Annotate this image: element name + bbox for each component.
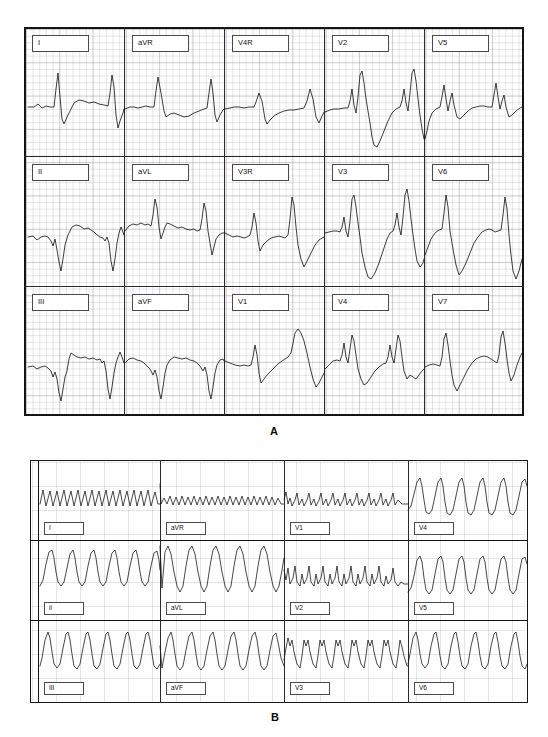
lead-label-a-v1: V1 bbox=[232, 294, 289, 311]
lead-label-b-avr: aVR bbox=[166, 522, 206, 535]
panel-a: I aVR V4R V2 V5 II aVL V3R V3 V6 III aVF… bbox=[24, 27, 524, 416]
panel-a-col-separator bbox=[124, 27, 125, 416]
lead-label-b-v2: V2 bbox=[290, 602, 330, 615]
panel-b-caption: B bbox=[271, 711, 279, 723]
lead-label-a-iii: III bbox=[32, 294, 89, 311]
lead-label-a-v7: V7 bbox=[432, 294, 489, 311]
lead-label-b-i: I bbox=[44, 522, 84, 535]
panel-a-col-separator bbox=[324, 27, 325, 416]
panel-a-row-separator bbox=[24, 156, 524, 157]
lead-label-b-avf: aVF bbox=[166, 682, 206, 695]
lead-label-a-v3r: V3R bbox=[232, 164, 289, 181]
panel-b-col-separator bbox=[160, 460, 161, 703]
panel-a-row-separator bbox=[24, 286, 524, 287]
panel-b: I aVR V1 V4 ii aVL V2 V5 III aVF V3 V6 bbox=[30, 460, 528, 703]
lead-label-b-v5: V5 bbox=[414, 602, 454, 615]
lead-label-a-avf: aVF bbox=[132, 294, 189, 311]
lead-label-b-v1: V1 bbox=[290, 522, 330, 535]
lead-label-b-ii: ii bbox=[44, 602, 84, 615]
lead-label-a-v5: V5 bbox=[432, 35, 489, 52]
ecg-figure: I aVR V4R V2 V5 II aVL V3R V3 V6 III aVF… bbox=[0, 0, 548, 737]
lead-label-a-v3: V3 bbox=[332, 164, 389, 181]
lead-label-a-v2: V2 bbox=[332, 35, 389, 52]
lead-label-a-i: I bbox=[32, 35, 89, 52]
panel-b-col-separator bbox=[284, 460, 285, 703]
lead-label-b-v4: V4 bbox=[414, 522, 454, 535]
lead-label-b-v6: V6 bbox=[414, 682, 454, 695]
lead-label-a-avr: aVR bbox=[132, 35, 189, 52]
panel-b-row-separator bbox=[30, 620, 528, 621]
panel-b-calibration-bar bbox=[38, 460, 39, 703]
panel-a-frame bbox=[24, 27, 524, 416]
lead-label-b-iii: III bbox=[44, 682, 84, 695]
lead-label-a-ii: II bbox=[32, 164, 89, 181]
lead-label-a-v4: V4 bbox=[332, 294, 389, 311]
panel-a-col-separator bbox=[424, 27, 425, 416]
lead-label-a-avl: aVL bbox=[132, 164, 189, 181]
lead-label-a-v4r: V4R bbox=[232, 35, 289, 52]
panel-a-caption: A bbox=[270, 425, 278, 437]
lead-label-b-v3: V3 bbox=[290, 682, 330, 695]
panel-b-col-separator bbox=[408, 460, 409, 703]
lead-label-a-v6: V6 bbox=[432, 164, 489, 181]
panel-b-frame bbox=[30, 460, 528, 703]
panel-a-col-separator bbox=[224, 27, 225, 416]
panel-b-row-separator bbox=[30, 540, 528, 541]
lead-label-b-avl: aVL bbox=[166, 602, 206, 615]
